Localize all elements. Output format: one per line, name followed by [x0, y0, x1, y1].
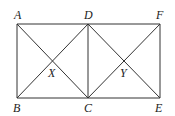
label-Y: Y	[120, 67, 127, 79]
label-D: D	[84, 9, 93, 21]
label-E: E	[155, 102, 162, 114]
label-X: X	[48, 67, 55, 79]
label-A: A	[14, 9, 21, 21]
label-F: F	[156, 9, 163, 21]
label-B: B	[13, 102, 20, 114]
label-C: C	[84, 102, 92, 114]
geometry-diagram: A D F B C E X Y	[0, 0, 175, 116]
